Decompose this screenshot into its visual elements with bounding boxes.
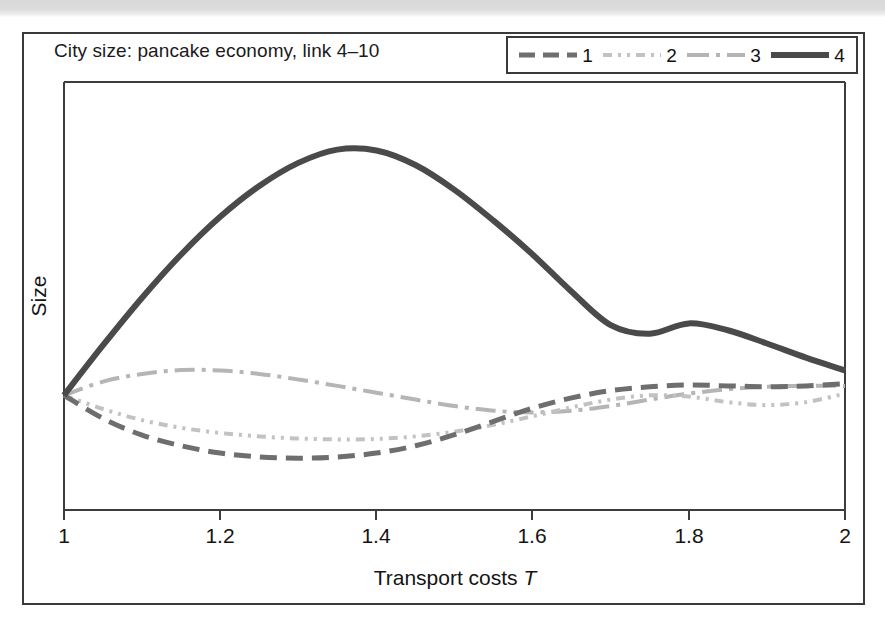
- x-axis-tick-labels: 1 1.2 1.4 1.6 1.8 2: [58, 524, 851, 547]
- x-axis-title: Transport costs T: [374, 566, 539, 589]
- series-line-3: [64, 370, 845, 413]
- x-tick-label: 1.2: [205, 524, 234, 547]
- plot-area: 1 1.2 1.4 1.6 1.8 2 Transport costs T Si…: [0, 0, 885, 632]
- x-tick-label: 2: [839, 524, 851, 547]
- series-layer: [64, 148, 845, 458]
- x-axis-title-symbol: T: [523, 566, 538, 589]
- figure-root: City size: pancake economy, link 4–10 1 …: [0, 0, 885, 632]
- x-axis-title-text: Transport costs: [374, 566, 524, 589]
- axes-frame: [64, 82, 845, 510]
- x-tick-label: 1.6: [517, 524, 546, 547]
- x-axis-ticks: [64, 510, 845, 520]
- series-line-4: [64, 148, 845, 395]
- x-tick-label: 1: [58, 524, 70, 547]
- series-line-1: [64, 384, 845, 458]
- x-tick-label: 1.4: [361, 524, 391, 547]
- x-tick-label: 1.8: [674, 524, 703, 547]
- y-axis-title: Size: [27, 276, 50, 317]
